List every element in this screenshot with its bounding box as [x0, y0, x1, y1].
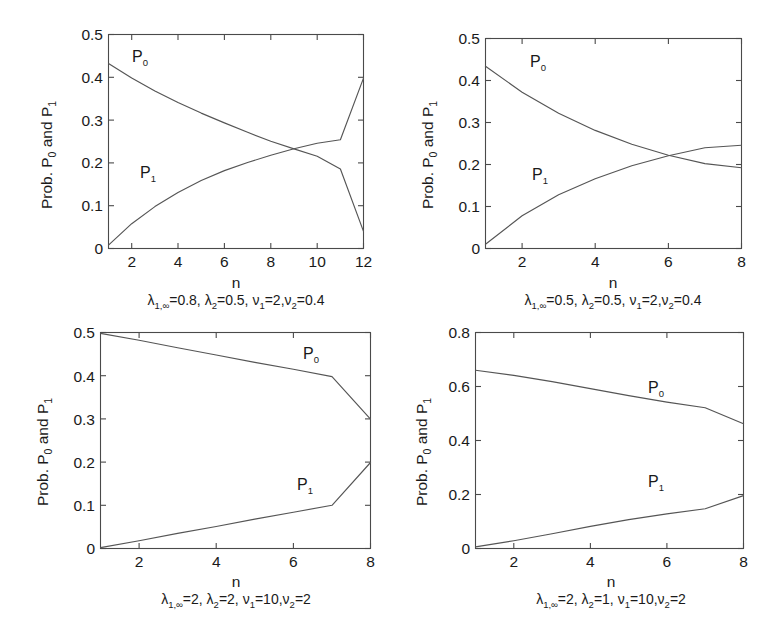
x-tick-labels-bottom-left: 2 4 6 8 — [135, 553, 375, 570]
curve-label-p1-top-left: P1 — [140, 164, 156, 184]
svg-text:0: 0 — [471, 240, 480, 257]
svg-text:4: 4 — [586, 553, 595, 570]
svg-text:Prob. P0 and P1: Prob. P0 and P1 — [38, 101, 58, 209]
svg-text:8: 8 — [737, 253, 746, 270]
curve-label-p1-top-right: P1 — [532, 166, 548, 186]
y-axis-label-bottom-right: Prob. P0 and P1 — [413, 398, 433, 506]
svg-text:0: 0 — [86, 540, 95, 557]
svg-text:8: 8 — [266, 253, 275, 270]
figure-four-panel-probability-plots: Prob. P0 and P1 0 — [0, 0, 778, 631]
svg-text:0.4: 0.4 — [458, 72, 480, 89]
x-axis-label-top-right: n — [609, 274, 618, 291]
y-axis-label-top-left: Prob. P0 and P1 — [38, 101, 58, 209]
svg-text:0.4: 0.4 — [448, 432, 470, 449]
svg-text:0.2: 0.2 — [81, 154, 103, 171]
svg-text:0.2: 0.2 — [73, 454, 95, 471]
svg-text:2: 2 — [518, 253, 527, 270]
curve-label-p0-bottom-left: P0 — [303, 345, 319, 365]
y-ticks-bottom-left — [101, 333, 371, 549]
plot-frame-bottom-left — [101, 333, 371, 549]
y-tick-labels-bottom-right: 0 0.2 0.4 0.6 0.8 — [448, 324, 470, 557]
x-axis-label-top-left: n — [232, 274, 241, 291]
chart-panel-bottom-left: Prob. P0 and P1 0 0.1 — [0, 312, 389, 627]
svg-text:6: 6 — [289, 553, 298, 570]
curve-label-p0-bottom-right: P0 — [648, 379, 664, 399]
x-axis-label-bottom-left: n — [232, 573, 241, 590]
curve-p0-bottom-right — [476, 370, 744, 423]
svg-text:0.5: 0.5 — [81, 26, 103, 43]
svg-text:4: 4 — [212, 553, 221, 570]
x-ticks-bottom-left — [139, 333, 370, 549]
svg-text:8: 8 — [739, 553, 748, 570]
y-tick-labels-top-left: 0 0.1 0.2 0.3 0.4 0.5 — [81, 26, 103, 257]
x-axis-label-bottom-right: n — [607, 573, 616, 590]
x-tick-labels-top-right: 2 4 6 8 — [518, 253, 746, 270]
caption-top-left: λ1,∞=0.8, λ2=0.5, ν1=2,ν2=0.4 — [148, 292, 325, 311]
svg-text:0.3: 0.3 — [81, 112, 103, 129]
y-tick-labels-top-right: 0 0.1 0.2 0.3 0.4 0.5 — [458, 30, 480, 257]
chart-panel-bottom-right: Prob. P0 and P1 0 0.2 0.4 0.6 — [389, 312, 778, 627]
svg-text:0.1: 0.1 — [458, 198, 480, 215]
curve-p0-top-left — [109, 64, 364, 232]
svg-text:10: 10 — [309, 253, 327, 270]
svg-text:0.2: 0.2 — [458, 156, 480, 173]
x-ticks-bottom-right — [514, 333, 744, 549]
svg-text:6: 6 — [220, 253, 229, 270]
curve-label-p1-bottom-left: P1 — [297, 476, 313, 496]
y-axis-label-bottom-left: Prob. P0 and P1 — [34, 398, 54, 506]
svg-text:4: 4 — [591, 253, 600, 270]
curve-label-p0-top-right: P0 — [530, 53, 546, 73]
caption-top-right: λ1,∞=0.5, λ2=0.5, ν1=2,ν2=0.4 — [525, 292, 702, 311]
svg-text:6: 6 — [664, 253, 673, 270]
svg-text:0.6: 0.6 — [448, 378, 470, 395]
curve-p1-top-right — [486, 145, 742, 244]
svg-text:0.4: 0.4 — [73, 368, 95, 385]
svg-text:0.1: 0.1 — [73, 497, 95, 514]
curve-p0-bottom-left — [101, 333, 371, 419]
curve-p1-bottom-left — [101, 463, 371, 548]
svg-text:0.5: 0.5 — [458, 30, 480, 47]
svg-text:0.3: 0.3 — [73, 411, 95, 428]
plot-frame-bottom-right — [476, 333, 744, 549]
svg-text:Prob. P0 and P1: Prob. P0 and P1 — [419, 101, 439, 209]
curve-label-p1-bottom-right: P1 — [648, 473, 664, 493]
y-ticks-bottom-right — [476, 333, 744, 549]
svg-text:2: 2 — [135, 553, 144, 570]
svg-text:12: 12 — [355, 253, 372, 270]
curve-p0-top-right — [486, 66, 742, 168]
x-ticks-top-right — [522, 39, 741, 249]
plot-frame-top-right — [486, 39, 742, 249]
svg-text:0: 0 — [461, 540, 470, 557]
svg-text:6: 6 — [663, 553, 672, 570]
caption-bottom-left: λ1,∞=2, λ2=2, ν1=10,ν2=2 — [161, 591, 311, 610]
chart-panel-top-right: Prob. P0 and P1 0 0.1 — [389, 0, 778, 315]
svg-text:Prob. P0 and P1: Prob. P0 and P1 — [34, 398, 54, 506]
svg-text:0: 0 — [94, 240, 103, 257]
curve-p1-top-left — [109, 78, 364, 245]
svg-text:2: 2 — [509, 553, 518, 570]
svg-text:Prob. P0 and P1: Prob. P0 and P1 — [413, 398, 433, 506]
svg-text:0.5: 0.5 — [73, 324, 95, 341]
svg-text:0.3: 0.3 — [458, 114, 480, 131]
svg-text:0.4: 0.4 — [81, 69, 103, 86]
svg-text:4: 4 — [174, 253, 183, 270]
svg-text:0.8: 0.8 — [448, 324, 470, 341]
curve-label-p0-top-left: P0 — [132, 48, 148, 68]
y-tick-labels-bottom-left: 0 0.1 0.2 0.3 0.4 0.5 — [73, 324, 95, 557]
svg-text:2: 2 — [127, 253, 136, 270]
x-tick-labels-top-left: 2 4 6 8 10 12 — [127, 253, 372, 270]
curve-p1-bottom-right — [476, 496, 744, 547]
svg-text:8: 8 — [366, 553, 375, 570]
svg-text:0.2: 0.2 — [448, 486, 470, 503]
x-tick-labels-bottom-right: 2 4 6 8 — [509, 553, 747, 570]
caption-bottom-right: λ1,∞=2, λ2=1, ν1=10,ν2=2 — [536, 591, 686, 610]
chart-panel-top-left: Prob. P0 and P1 0 — [0, 0, 389, 315]
y-ticks-top-right — [486, 39, 742, 249]
svg-text:0.1: 0.1 — [81, 197, 103, 214]
y-axis-label-top-right: Prob. P0 and P1 — [419, 101, 439, 209]
